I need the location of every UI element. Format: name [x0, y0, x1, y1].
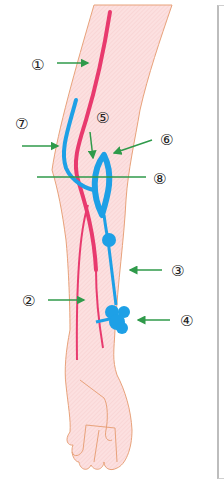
label-7: ⑦ [15, 115, 28, 133]
label-3: ③ [171, 262, 184, 280]
label-1: ① [31, 56, 44, 74]
label-8: ⑧ [153, 170, 166, 188]
vein-node [102, 233, 116, 247]
label-4: ④ [180, 312, 193, 330]
arm-diagram: ① ⑦ ⑤ ⑥ ⑧ ③ ② ④ [0, 0, 224, 484]
label-5: ⑤ [96, 109, 109, 127]
label-6: ⑥ [160, 131, 173, 149]
side-panel-border [217, 5, 224, 479]
label-2: ② [22, 292, 35, 310]
